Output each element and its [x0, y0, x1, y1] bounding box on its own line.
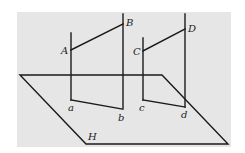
segment-ab — [71, 24, 123, 50]
label-B: B — [125, 17, 133, 28]
label-b: b — [118, 112, 124, 123]
projection-cd — [143, 100, 185, 107]
label-d: d — [181, 109, 187, 120]
label-C: C — [133, 46, 141, 57]
plane-h — [20, 75, 228, 144]
label-c: c — [139, 102, 145, 113]
segment-cd — [143, 29, 185, 51]
label-a: a — [68, 102, 74, 113]
label-H: H — [87, 131, 97, 142]
label-D: D — [187, 23, 196, 34]
projection-ab — [71, 100, 122, 109]
label-A: A — [60, 45, 68, 56]
projection-diagram: A B C D a b c d H — [0, 0, 245, 153]
